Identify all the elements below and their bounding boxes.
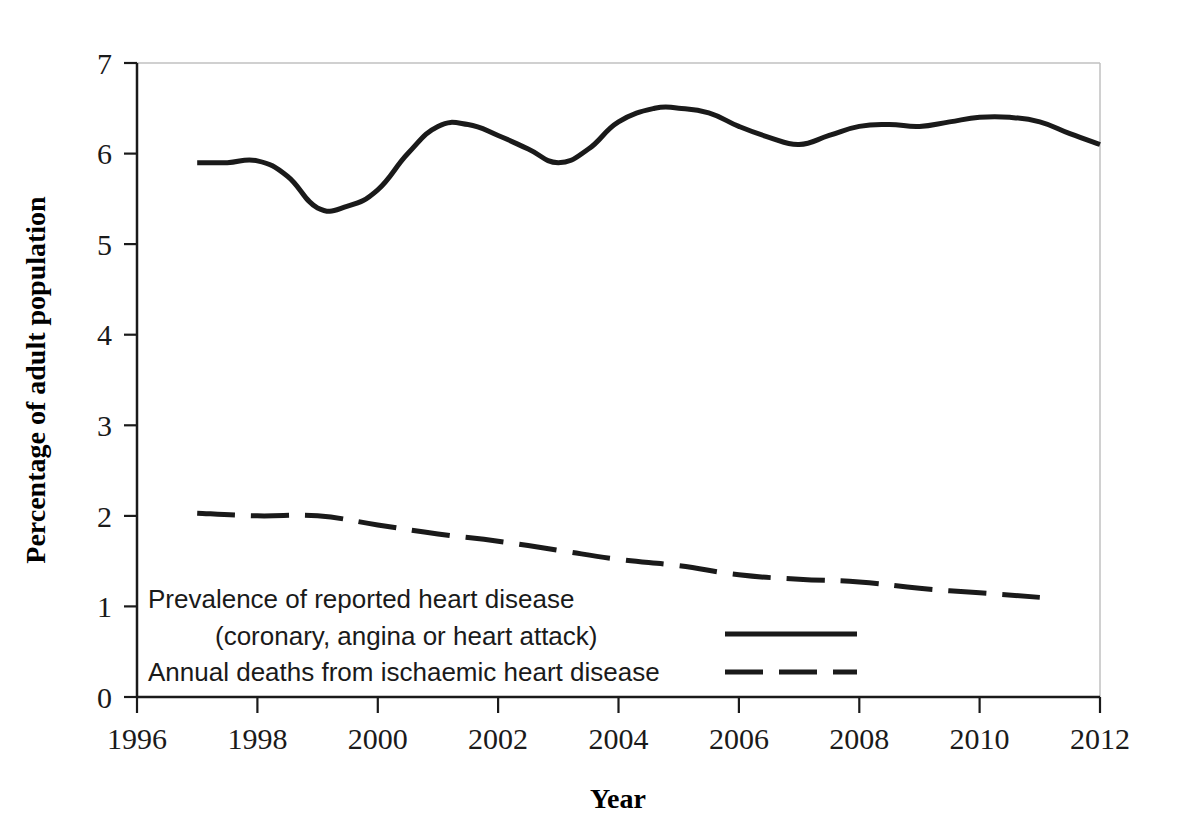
- y-tick-label-1: 1: [97, 590, 112, 623]
- y-tick-label-2: 2: [97, 500, 112, 533]
- y-tick-label-4: 4: [97, 318, 112, 351]
- chart-legend: Prevalence of reported heart disease (co…: [148, 584, 857, 687]
- y-tick-label-3: 3: [97, 409, 112, 442]
- x-axis-title: Year: [590, 783, 646, 814]
- x-tick-label-2010: 2010: [950, 722, 1010, 755]
- y-tick-label-0: 0: [97, 681, 112, 714]
- x-tick-label-2002: 2002: [468, 722, 528, 755]
- x-tick-label-1998: 1998: [227, 722, 287, 755]
- y-axis-ticks: [124, 63, 137, 697]
- y-tick-label-6: 6: [97, 137, 112, 170]
- x-tick-label-2006: 2006: [709, 722, 769, 755]
- legend-label-prevalence-line2: (coronary, angina or heart attack): [215, 621, 597, 651]
- x-tick-label-2012: 2012: [1070, 722, 1130, 755]
- x-tick-label-1996: 1996: [107, 722, 167, 755]
- x-tick-label-2008: 2008: [829, 722, 889, 755]
- legend-label-prevalence-line1: Prevalence of reported heart disease: [148, 584, 574, 614]
- x-tick-label-2000: 2000: [348, 722, 408, 755]
- x-tick-label-2004: 2004: [589, 722, 649, 755]
- y-axis-title: Percentage of adult population: [20, 196, 51, 564]
- chart-figure: 7 6 5 4 3 2 1 0 1996 1998 2000 2002 2004…: [0, 0, 1183, 840]
- y-tick-label-7: 7: [97, 47, 112, 80]
- series-line-prevalence: [197, 107, 1100, 212]
- x-axis-ticks: [137, 697, 1100, 713]
- y-tick-label-5: 5: [97, 228, 112, 261]
- legend-label-deaths: Annual deaths from ischaemic heart disea…: [148, 657, 660, 687]
- line-chart: 7 6 5 4 3 2 1 0 1996 1998 2000 2002 2004…: [0, 0, 1183, 840]
